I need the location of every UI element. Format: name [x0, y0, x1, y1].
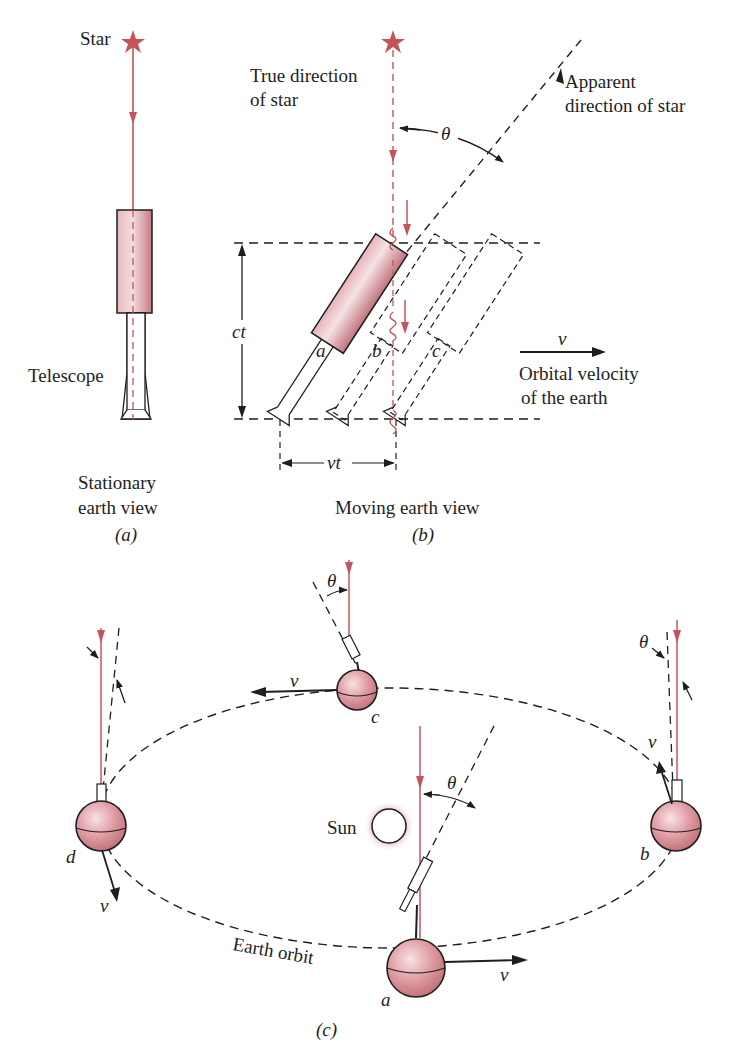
earth-icon — [337, 670, 377, 710]
photon-wave-mid — [390, 312, 396, 341]
orbit-label: Earth orbit — [231, 933, 316, 968]
velocity-symbol-a: v — [500, 964, 509, 985]
apparent-direction-line2: direction of star — [565, 95, 686, 116]
velocity-symbol-c: v — [290, 670, 299, 691]
theta-label: θ — [447, 772, 456, 793]
apparent-direction-line1: Apparent — [565, 71, 636, 92]
panel-b-moving-view: True direction of star Apparent directio… — [230, 30, 686, 546]
velocity-line2: of the earth — [521, 387, 608, 408]
position-label-c: c — [432, 340, 441, 361]
earth-label-c: c — [371, 706, 380, 727]
stellar-aberration-diagram: Star Telescope Stationary earth view (a)… — [0, 0, 756, 1051]
earth-label-d: d — [66, 846, 76, 867]
telescope-position-a — [262, 234, 407, 429]
telescope-label: Telescope — [28, 365, 104, 386]
earth-position-d: v d — [66, 628, 126, 916]
caption-line1: Stationary — [78, 472, 157, 493]
velocity-symbol: v — [558, 328, 567, 349]
apparent-arrow-icon — [556, 68, 564, 84]
earth-icon — [651, 801, 701, 851]
position-label-a: a — [316, 340, 326, 361]
earth-position-c: θ v c — [250, 560, 380, 727]
earth-icon — [76, 801, 126, 851]
position-label-b: b — [372, 340, 382, 361]
telescope-tube — [117, 210, 152, 313]
theta-label-c: θ — [327, 570, 336, 591]
earth-label-a: a — [381, 989, 391, 1010]
panel-c-orbit-view: Earth orbit Sun θ v a — [66, 560, 701, 1041]
velocity-line1: Orbital velocity — [519, 363, 639, 384]
earth-position-a: θ v a — [381, 724, 528, 1010]
theta-label: θ — [441, 123, 450, 144]
theta-label-b: θ — [639, 631, 648, 652]
sun-label: Sun — [327, 817, 357, 838]
earth-icon — [387, 939, 445, 997]
caption-line2: earth view — [78, 497, 158, 518]
sun-icon — [372, 809, 406, 843]
velocity-symbol-d: v — [100, 895, 109, 916]
caption: Moving earth view — [335, 497, 480, 518]
earth-position-b: θ v b — [639, 620, 701, 864]
earth-label-b: b — [640, 843, 650, 864]
velocity-symbol-b: v — [648, 731, 657, 752]
panel-a-label: (a) — [115, 524, 137, 546]
panel-a-stationary-view: Star Telescope Stationary earth view (a) — [28, 28, 158, 546]
panel-c-label: (c) — [316, 1019, 337, 1041]
ray-arrow-icon — [129, 112, 137, 124]
panel-b-label: (b) — [412, 524, 434, 546]
true-direction-line1: True direction — [250, 65, 358, 86]
star-icon — [381, 30, 405, 53]
star-label: Star — [80, 28, 111, 49]
ct-label: ct — [232, 321, 246, 342]
velocity-arrow-icon — [592, 347, 606, 357]
true-direction-line2: of star — [250, 89, 299, 110]
vt-label: vt — [327, 452, 341, 473]
